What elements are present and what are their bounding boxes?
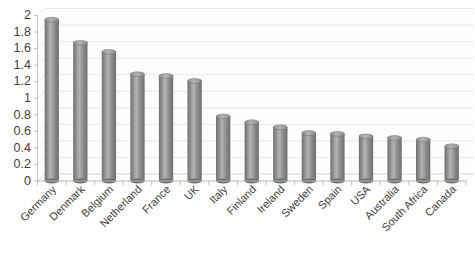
bar-top-cap [445, 144, 459, 149]
bar [445, 144, 459, 184]
gridline-depth-connector [38, 91, 46, 98]
x-axis-tick-label: UK [182, 182, 202, 202]
bar-body [73, 43, 87, 181]
bar-body [273, 127, 287, 181]
bar-body [159, 76, 173, 181]
bar [273, 125, 287, 184]
bar [302, 131, 316, 184]
gridline-depth-connector [38, 25, 46, 32]
bar [130, 72, 144, 184]
bar-body [302, 133, 316, 181]
y-axis-tick-label: 1.2 [14, 74, 31, 88]
bar-body [130, 74, 144, 181]
bar-body [245, 122, 259, 181]
x-axis-tick-label: Italy [207, 183, 230, 206]
bar-body [387, 138, 401, 181]
bar-body [216, 116, 230, 181]
bar-top-cap [73, 40, 87, 45]
bar [73, 40, 87, 183]
chart-canvas: 00.20.40.60.811.21.41.61.82 GermanyDenma… [0, 0, 475, 254]
y-axis-tick-label: 1.8 [14, 25, 31, 39]
bar-top-cap [330, 131, 344, 136]
bar [330, 131, 344, 183]
x-axis-tick-label: Spain [315, 183, 343, 211]
y-axis-tick-label: 2 [24, 8, 31, 22]
bar-top-cap [159, 74, 173, 79]
bar-top-cap [102, 50, 116, 55]
bar [387, 136, 401, 184]
bar-top-cap [387, 136, 401, 141]
y-axis-tick-label: 0.8 [14, 108, 31, 122]
gridline-depth-connector [38, 141, 46, 148]
gridline-depth-connector [38, 42, 46, 49]
bar [102, 50, 116, 184]
bar [187, 78, 201, 183]
bar-body [359, 136, 373, 181]
bar [45, 17, 59, 183]
gridline-depth-connector [38, 124, 46, 131]
gridline-depth-connector [38, 58, 46, 65]
gridline-depth-connector [38, 108, 46, 115]
bar-body [416, 140, 430, 181]
bar-chart: 00.20.40.60.811.21.41.61.82 GermanyDenma… [0, 0, 475, 254]
x-axis-tick-label: Finland [224, 183, 258, 217]
x-axis-tick-label: France [140, 183, 173, 216]
bar-body [102, 52, 116, 181]
x-axis-tick-labels: GermanyDenmarkBelgiumNetherlandFranceUKI… [18, 182, 459, 233]
bar-body [187, 81, 201, 181]
x-axis-tick-label: Canada [422, 182, 458, 218]
bar [159, 74, 173, 184]
bar-top-cap [216, 114, 230, 119]
bar-top-cap [273, 125, 287, 130]
gridline-depth-connector [38, 157, 46, 164]
x-axis-tick-label: Sweden [279, 183, 316, 220]
bar-body [445, 146, 459, 181]
gridline-depth-connector [38, 75, 46, 82]
bar-top-cap [45, 17, 59, 22]
y-axis-tick-label: 1 [24, 91, 31, 105]
bar [245, 120, 259, 184]
bar-top-cap [302, 131, 316, 136]
bar-top-cap [187, 78, 201, 83]
bar [416, 137, 430, 183]
y-axis-tick-labels: 00.20.40.60.811.21.41.61.82 [14, 8, 31, 188]
y-axis-tick-label: 0.2 [14, 157, 31, 171]
bar-top-cap [359, 134, 373, 139]
y-axis-tick-label: 1.6 [14, 41, 31, 55]
bar-body [45, 20, 59, 181]
gridline-depth-connector [38, 9, 46, 16]
bar-top-cap [416, 137, 430, 142]
y-axis-tick-label: 0.6 [14, 124, 31, 138]
bar-top-cap [245, 120, 259, 125]
y-axis-tick-label: 0.4 [14, 141, 31, 155]
bar [216, 114, 230, 183]
bar-top-cap [130, 72, 144, 77]
y-axis-tick-label: 0 [24, 174, 31, 188]
y-axis-tick-label: 1.4 [14, 58, 31, 72]
x-axis-tick-label: USA [348, 182, 373, 207]
bar [359, 134, 373, 183]
bar-body [330, 134, 344, 181]
